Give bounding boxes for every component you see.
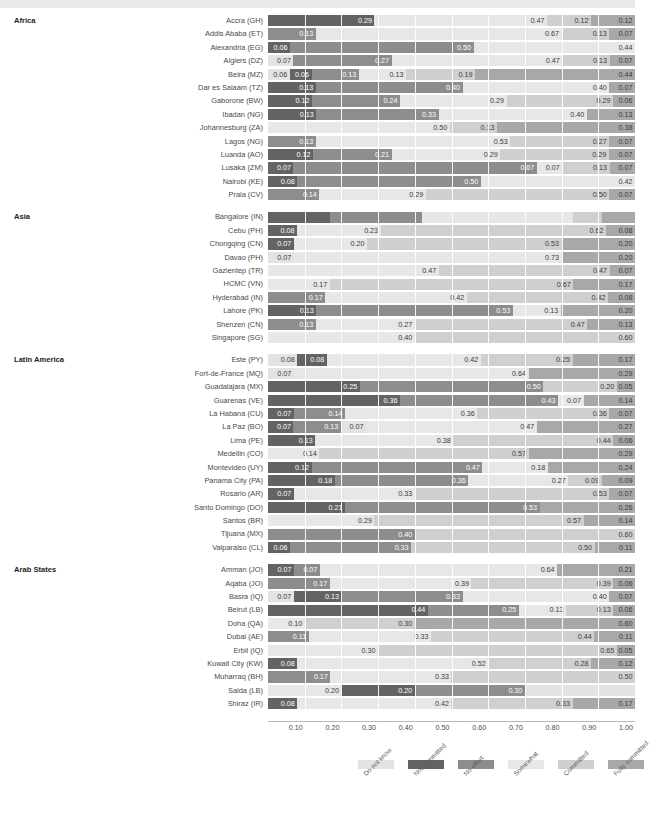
bar-segment[interactable]: 0.53 bbox=[316, 305, 512, 316]
stacked-bar[interactable]: 0.120.240.290.290.06 bbox=[268, 95, 635, 106]
bar-segment[interactable]: 0.06 bbox=[268, 542, 290, 553]
bar-segment[interactable]: 0.07 bbox=[268, 252, 294, 263]
bar-segment[interactable]: 0.13 bbox=[587, 109, 635, 120]
stacked-bar[interactable]: 0.070.200.530.20 bbox=[268, 238, 635, 249]
bar-segment[interactable]: 0.05 bbox=[617, 381, 635, 392]
stacked-bar[interactable]: 0.070.330.530.07 bbox=[268, 488, 635, 499]
bar-segment[interactable]: 0.65 bbox=[378, 645, 617, 656]
bar-segment[interactable]: 0.20 bbox=[562, 238, 635, 249]
bar-segment[interactable]: 0.08 bbox=[268, 658, 297, 669]
stacked-bar[interactable]: 0.080.230.620.08 bbox=[268, 225, 635, 236]
bar-segment[interactable]: 0.36 bbox=[477, 408, 609, 419]
bar-segment[interactable]: 0.29 bbox=[400, 95, 506, 106]
chart-row[interactable]: Beirut (LB)0.440.250.130.130.06 bbox=[0, 603, 635, 616]
bar-segment[interactable]: 0.47 bbox=[366, 421, 537, 432]
bar-segment[interactable]: 0.67 bbox=[293, 162, 536, 173]
bar-segment[interactable]: 0.05 bbox=[617, 645, 635, 656]
stacked-bar[interactable]: 0.170.330.50 bbox=[268, 671, 635, 682]
bar-segment[interactable]: 0.13 bbox=[312, 69, 359, 80]
bar-segment[interactable]: 0.08 bbox=[606, 225, 635, 236]
bar-segment[interactable]: 0.40 bbox=[268, 529, 415, 540]
bar-segment[interactable]: 0.60 bbox=[415, 529, 635, 540]
bar-segment[interactable]: 0.43 bbox=[400, 395, 558, 406]
bar-segment[interactable]: 0.27 bbox=[510, 136, 609, 147]
bar-segment[interactable]: 0.13 bbox=[359, 69, 406, 80]
bar-segment[interactable]: 0.20 bbox=[561, 305, 635, 316]
chart-row[interactable]: Basra (IQ)0.070.130.330.400.07 bbox=[0, 590, 635, 603]
bar-segment[interactable]: 0.13 bbox=[268, 136, 316, 147]
bar-segment[interactable] bbox=[422, 212, 572, 223]
chart-row[interactable]: Medellin (CO)0.140.570.29 bbox=[0, 447, 635, 460]
chart-row[interactable]: Latin AmericaEste (PY)0.080.080.420.250.… bbox=[0, 353, 635, 366]
chart-row[interactable]: Dar es Salaam (TZ)0.130.400.400.07 bbox=[0, 81, 635, 94]
bar-segment[interactable]: 0.17 bbox=[268, 279, 330, 290]
stacked-bar[interactable]: 0.170.420.420.08 bbox=[268, 292, 635, 303]
bar-segment[interactable]: 0.25 bbox=[268, 381, 360, 392]
chart-row[interactable]: Shiraz (IR)0.080.420.330.17 bbox=[0, 697, 635, 710]
stacked-bar[interactable]: 0.130.530.270.07 bbox=[268, 136, 635, 147]
legend-item[interactable]: Fully committed bbox=[608, 760, 644, 769]
chart-row[interactable]: Lagos (NG)0.130.530.270.07 bbox=[0, 135, 635, 148]
bar-segment[interactable]: 0.38 bbox=[315, 435, 453, 446]
bar-segment[interactable]: 0.08 bbox=[268, 176, 297, 187]
bar-segment[interactable]: 0.07 bbox=[268, 488, 294, 499]
stacked-bar[interactable]: 0.130.270.470.13 bbox=[268, 319, 635, 330]
bar-segment[interactable]: 0.13 bbox=[562, 55, 609, 66]
bar-segment[interactable]: 0.47 bbox=[439, 265, 610, 276]
bar-segment[interactable]: 0.26 bbox=[540, 502, 635, 513]
bar-segment[interactable]: 0.14 bbox=[584, 515, 635, 526]
bar-segment[interactable]: 0.44 bbox=[431, 631, 594, 642]
chart-row[interactable]: Kuwait City (KW)0.080.520.280.12 bbox=[0, 657, 635, 670]
bar-segment[interactable]: 0.50 bbox=[411, 542, 595, 553]
bar-segment[interactable]: 0.44 bbox=[474, 42, 635, 53]
bar-segment[interactable]: 0.27 bbox=[468, 475, 568, 486]
bar-segment[interactable]: 0.33 bbox=[294, 488, 415, 499]
bar-segment[interactable]: 0.42 bbox=[481, 176, 635, 187]
bar-segment[interactable]: 0.29 bbox=[507, 95, 613, 106]
stacked-bar[interactable]: 0.060.060.130.130.190.44 bbox=[268, 69, 635, 80]
stacked-bar[interactable]: 0.080.080.420.250.17 bbox=[268, 354, 635, 365]
stacked-bar[interactable]: 0.120.210.290.290.07 bbox=[268, 149, 635, 160]
stacked-bar[interactable]: 0.180.360.270.090.09 bbox=[268, 475, 635, 486]
chart-row[interactable]: Lima (PE)0.130.380.440.06 bbox=[0, 434, 635, 447]
chart-row[interactable]: Dubai (AE)0.110.330.440.11 bbox=[0, 630, 635, 643]
bar-segment[interactable]: 0.07 bbox=[558, 395, 584, 406]
bar-segment[interactable]: 0.07 bbox=[609, 149, 635, 160]
chart-row[interactable]: Algiers (DZ)0.070.270.470.130.07 bbox=[0, 54, 635, 67]
bar-segment[interactable]: 0.47 bbox=[392, 55, 563, 66]
bar-segment[interactable]: 0.50 bbox=[426, 189, 610, 200]
bar-segment[interactable]: 0.42 bbox=[297, 698, 451, 709]
chart-row[interactable]: Hyderabad (IN)0.170.420.420.08 bbox=[0, 291, 635, 304]
bar-segment[interactable]: 0.60 bbox=[415, 332, 635, 343]
chart-row[interactable]: Fort-de-France (MQ)0.070.640.29 bbox=[0, 367, 635, 380]
bar-segment[interactable]: 0.07 bbox=[610, 162, 635, 173]
stacked-bar[interactable]: 0.060.500.44 bbox=[268, 42, 635, 53]
chart-row[interactable]: Muharraq (BH)0.170.330.50 bbox=[0, 670, 635, 683]
chart-row[interactable]: Santos (BR)0.290.570.14 bbox=[0, 514, 635, 527]
bar-segment[interactable]: 0.07 bbox=[609, 28, 635, 39]
bar-segment[interactable]: 0.47 bbox=[374, 15, 546, 26]
chart-row[interactable]: Beira (MZ)0.060.060.130.130.190.44 bbox=[0, 68, 635, 81]
bar-segment[interactable]: 0.67 bbox=[316, 28, 562, 39]
bar-segment[interactable]: 0.07 bbox=[268, 421, 293, 432]
bar-segment[interactable]: 0.06 bbox=[268, 42, 290, 53]
bar-segment[interactable]: 0.07 bbox=[610, 55, 635, 66]
bar-segment[interactable]: 0.08 bbox=[268, 225, 297, 236]
legend-item[interactable]: Somewhat bbox=[508, 760, 544, 769]
bar-segment[interactable]: 0.29 bbox=[392, 149, 501, 160]
stacked-bar[interactable]: 0.170.670.17 bbox=[268, 279, 635, 290]
stacked-bar[interactable]: 0.250.500.200.05 bbox=[268, 381, 635, 392]
bar-segment[interactable]: 0.29 bbox=[319, 189, 425, 200]
bar-segment[interactable]: 0.07 bbox=[268, 55, 293, 66]
bar-segment[interactable]: 0.13 bbox=[562, 28, 610, 39]
bar-segment[interactable]: 0.08 bbox=[268, 698, 297, 709]
bar-segment[interactable]: 0.17 bbox=[268, 292, 325, 303]
bar-segment[interactable]: 0.57 bbox=[374, 515, 583, 526]
chart-row[interactable]: Erbil (IQ)0.300.650.05 bbox=[0, 644, 635, 657]
bar-segment[interactable] bbox=[268, 212, 330, 223]
chart-row[interactable]: Guadalajara (MX)0.250.500.200.05 bbox=[0, 380, 635, 393]
bar-segment[interactable]: 0.12 bbox=[268, 95, 312, 106]
bar-segment[interactable]: 0.47 bbox=[415, 319, 587, 330]
bar-segment[interactable]: 0.07 bbox=[609, 136, 635, 147]
bar-segment[interactable]: 0.21 bbox=[313, 149, 392, 160]
